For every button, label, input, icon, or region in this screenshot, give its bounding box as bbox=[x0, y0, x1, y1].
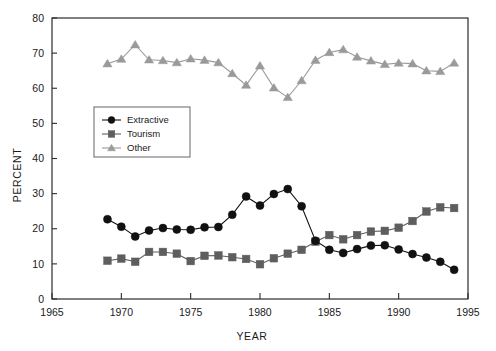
data-point-extractive bbox=[381, 241, 389, 249]
legend-label: Other bbox=[127, 142, 151, 153]
legend-label: Extractive bbox=[127, 114, 169, 125]
data-point-tourism bbox=[367, 228, 375, 236]
data-point-extractive bbox=[214, 223, 222, 231]
x-tick-label: 1965 bbox=[40, 306, 64, 318]
data-point-extractive bbox=[242, 192, 250, 200]
data-point-extractive bbox=[311, 237, 319, 245]
x-tick-label: 1990 bbox=[387, 306, 411, 318]
data-point-extractive bbox=[367, 242, 375, 250]
legend-marker-circle bbox=[108, 117, 115, 124]
data-point-tourism bbox=[450, 204, 458, 212]
data-point-extractive bbox=[353, 245, 361, 253]
data-point-tourism bbox=[381, 227, 389, 235]
data-point-extractive bbox=[422, 254, 430, 262]
y-tick-label: 10 bbox=[32, 258, 44, 270]
data-point-tourism bbox=[228, 253, 236, 261]
data-point-extractive bbox=[159, 224, 167, 232]
x-tick-label: 1975 bbox=[179, 306, 203, 318]
data-point-tourism bbox=[409, 217, 417, 225]
chart-background bbox=[0, 0, 496, 351]
data-point-extractive bbox=[103, 215, 111, 223]
data-point-extractive bbox=[395, 245, 403, 253]
x-tick-label: 1970 bbox=[110, 306, 134, 318]
data-point-tourism bbox=[173, 250, 181, 258]
data-point-extractive bbox=[117, 223, 125, 231]
data-point-tourism bbox=[215, 252, 223, 260]
data-point-tourism bbox=[270, 254, 278, 262]
data-point-extractive bbox=[325, 246, 333, 254]
y-tick-label: 20 bbox=[32, 222, 44, 234]
y-tick-label: 0 bbox=[38, 293, 44, 305]
data-point-tourism bbox=[395, 224, 403, 232]
y-tick-label: 40 bbox=[32, 152, 44, 164]
data-point-tourism bbox=[256, 260, 264, 268]
data-point-extractive bbox=[187, 226, 195, 234]
line-chart: 01020304050607080 1965197019751980198519… bbox=[0, 0, 496, 351]
x-tick-label: 1995 bbox=[456, 306, 480, 318]
data-point-extractive bbox=[436, 258, 444, 266]
x-tick-label: 1985 bbox=[318, 306, 342, 318]
data-point-tourism bbox=[353, 231, 361, 239]
data-point-tourism bbox=[284, 250, 292, 258]
chart-legend: ExtractiveTourismOther bbox=[94, 107, 190, 157]
data-point-tourism bbox=[242, 255, 250, 263]
data-point-extractive bbox=[256, 202, 264, 210]
chart-container: 01020304050607080 1965197019751980198519… bbox=[0, 0, 496, 351]
x-axis-title: YEAR bbox=[237, 330, 268, 342]
data-point-tourism bbox=[104, 257, 112, 265]
data-point-extractive bbox=[201, 223, 209, 231]
y-tick-label: 60 bbox=[32, 82, 44, 94]
data-point-extractive bbox=[228, 211, 236, 219]
data-point-tourism bbox=[118, 255, 126, 263]
y-axis-title: PERCENT bbox=[11, 148, 23, 202]
y-tick-label: 30 bbox=[32, 187, 44, 199]
y-tick-label: 70 bbox=[32, 47, 44, 59]
data-point-tourism bbox=[423, 208, 431, 216]
data-point-tourism bbox=[298, 246, 306, 254]
data-point-tourism bbox=[131, 258, 139, 266]
data-point-tourism bbox=[326, 231, 334, 239]
data-point-tourism bbox=[145, 248, 153, 256]
legend-label: Tourism bbox=[127, 128, 160, 139]
data-point-tourism bbox=[339, 235, 347, 243]
y-tick-label: 50 bbox=[32, 117, 44, 129]
data-point-extractive bbox=[270, 190, 278, 198]
data-point-extractive bbox=[131, 232, 139, 240]
legend-marker-square bbox=[108, 131, 115, 138]
data-point-extractive bbox=[339, 249, 347, 257]
data-point-tourism bbox=[187, 257, 195, 265]
x-tick-label: 1980 bbox=[248, 306, 272, 318]
data-point-tourism bbox=[159, 248, 167, 256]
data-point-extractive bbox=[450, 266, 458, 274]
data-point-tourism bbox=[201, 252, 209, 260]
data-point-tourism bbox=[436, 204, 444, 212]
data-point-extractive bbox=[298, 202, 306, 210]
data-point-extractive bbox=[284, 185, 292, 193]
data-point-extractive bbox=[409, 250, 417, 258]
y-tick-label: 80 bbox=[32, 12, 44, 24]
data-point-extractive bbox=[145, 227, 153, 235]
data-point-extractive bbox=[173, 225, 181, 233]
